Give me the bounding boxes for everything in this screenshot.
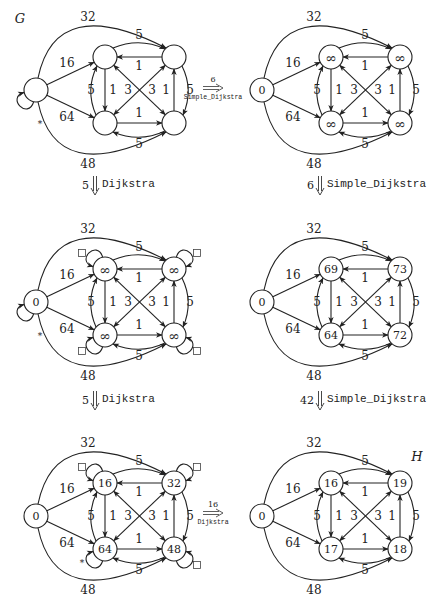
weight-label: 5	[313, 509, 321, 523]
transition-t3: 6Simple_Dijkstra	[307, 176, 426, 195]
node-tr: ∞	[388, 45, 412, 69]
weight-label: 5	[361, 137, 369, 151]
weight-label: 5	[135, 240, 143, 254]
node-tl: ∞	[319, 45, 343, 69]
node-label: ∞	[325, 116, 337, 132]
weight-label: 3	[350, 295, 358, 309]
weight-label: 5	[186, 295, 194, 309]
weight-label: 3	[374, 509, 382, 523]
transition-algorithm: Simple_Dijkstra	[327, 178, 426, 190]
transition-algorithm: Dijkstra	[102, 393, 155, 405]
box-marker-tl	[79, 250, 86, 257]
node-label: 72	[393, 329, 407, 342]
transition-cost: 6	[210, 75, 215, 84]
weight-label: 32	[80, 436, 95, 450]
transition-algorithm: Dijkstra	[197, 519, 228, 526]
weight-label: 16	[59, 268, 74, 282]
weight-label: 1	[135, 318, 143, 332]
node-label: 73	[393, 263, 407, 276]
double-down-arrow-icon	[91, 176, 99, 195]
weight-label: 16	[59, 482, 74, 496]
weight-label: 1	[361, 271, 369, 285]
node-label: 19	[393, 477, 407, 490]
weight-label: 5	[135, 137, 143, 151]
weight-label: 5	[412, 83, 420, 97]
weight-label: 1	[335, 83, 343, 97]
reduction-diagram: 324816645115511533*G3248166451155115330∞…	[0, 0, 429, 603]
node-circle	[93, 111, 117, 135]
weight-label: 48	[306, 583, 321, 597]
weight-label: 1	[388, 83, 396, 97]
transition-cost: 5	[82, 179, 89, 192]
weight-label: 48	[80, 583, 95, 597]
weight-label: 3	[148, 295, 156, 309]
weight-label: 5	[313, 83, 321, 97]
node-tl: ∞	[93, 257, 117, 281]
weight-label: 1	[135, 532, 143, 546]
weight-label: 5	[361, 563, 369, 577]
node-label: 16	[324, 477, 338, 490]
weight-label: 32	[306, 436, 321, 450]
transition-cost: 5	[82, 394, 89, 407]
double-right-arrow-icon	[203, 509, 223, 517]
weight-label: 48	[306, 369, 321, 383]
weight-label: 1	[361, 106, 369, 120]
weight-label: 1	[109, 509, 117, 523]
weight-label: 1	[335, 509, 343, 523]
node-tr: 32	[162, 471, 186, 495]
double-down-arrow-icon	[91, 391, 99, 410]
weight-label: 48	[80, 157, 95, 171]
double-down-arrow-icon	[316, 176, 324, 195]
graph-g4: 324816645115511533069736472	[250, 222, 420, 383]
weight-label: 5	[87, 295, 95, 309]
node-label: ∞	[394, 50, 406, 66]
node-tr: 73	[388, 257, 412, 281]
node-tr	[162, 45, 186, 69]
node-bl: ∞	[93, 323, 117, 347]
weight-label: 3	[374, 83, 382, 97]
node-bl: 64	[319, 323, 343, 347]
node-label: 64	[324, 329, 338, 342]
weight-label: 32	[306, 222, 321, 236]
node-label: ∞	[394, 116, 406, 132]
weight-label: 5	[135, 454, 143, 468]
box-marker-tl	[79, 464, 86, 471]
weight-label: 5	[412, 509, 420, 523]
node-tr: ∞	[162, 257, 186, 281]
transition-cost: 42	[300, 394, 314, 407]
node-label: 17	[324, 543, 338, 556]
weight-label: 5	[87, 509, 95, 523]
weight-label: 1	[135, 485, 143, 499]
box-marker-tr	[194, 250, 201, 257]
box-marker-br	[194, 348, 201, 355]
weight-label: 16	[285, 482, 300, 496]
graph-g5: 324816645115511533*016326448	[24, 436, 201, 597]
weight-label: 5	[87, 83, 95, 97]
transition-t6: 16Dijkstra	[197, 500, 228, 526]
node-br: 72	[388, 323, 412, 347]
weight-label: 1	[361, 532, 369, 546]
transition-t5: 42Simple_Dijkstra	[300, 391, 426, 410]
transition-algorithm: Simple_Dijkstra	[327, 393, 426, 405]
weight-label: 1	[109, 295, 117, 309]
node-circle	[162, 45, 186, 69]
weight-label: 1	[361, 318, 369, 332]
asterisk-marker: *	[38, 119, 43, 129]
node-circle	[93, 45, 117, 69]
weight-label: 16	[285, 268, 300, 282]
node-circle	[24, 78, 48, 102]
node-source: 0	[250, 290, 274, 314]
node-label: 0	[259, 84, 266, 97]
weight-label: 1	[388, 509, 396, 523]
graph-title: G	[15, 11, 25, 26]
node-source: 0	[24, 290, 48, 314]
double-down-arrow-icon	[316, 391, 324, 410]
node-label: ∞	[325, 50, 337, 66]
weight-label: 1	[135, 59, 143, 73]
node-br: ∞	[162, 323, 186, 347]
transition-cost: 16	[208, 500, 218, 509]
node-br	[162, 111, 186, 135]
weight-label: 1	[135, 106, 143, 120]
box-marker-br	[194, 562, 201, 569]
weight-label: 32	[80, 222, 95, 236]
